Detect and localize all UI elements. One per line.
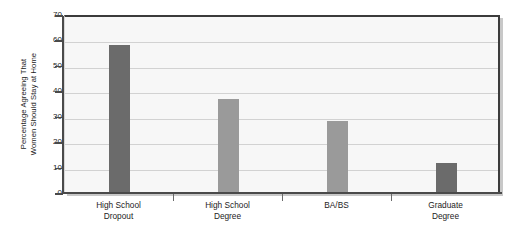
x-axis-tick-mark <box>173 194 174 201</box>
x-axis-category-label: High SchoolDegree <box>183 200 273 221</box>
y-axis-title-line-1: Percentage Agreeing That <box>19 53 29 155</box>
y-axis-tick-mark <box>55 117 63 119</box>
bar <box>109 45 130 192</box>
y-axis-tick-mark <box>55 66 63 68</box>
y-axis-tick-mark <box>55 40 63 42</box>
x-axis-category-label: BA/BS <box>292 200 382 211</box>
bar <box>327 121 348 192</box>
x-axis-category-label-line: Degree <box>401 211 491 222</box>
x-axis-category-label: GraduateDegree <box>401 200 491 221</box>
y-axis-tick-labels: 010203040506070 <box>38 0 62 241</box>
y-axis-tick-mark <box>55 142 63 144</box>
x-axis-tick-mark <box>282 194 283 201</box>
x-axis-category-label-line: High School <box>183 200 273 211</box>
x-axis-category-label: High SchoolDropout <box>74 200 164 221</box>
x-axis-category-label-line: High School <box>74 200 164 211</box>
y-axis-tick-mark <box>55 193 63 195</box>
x-axis-category-label-line: Dropout <box>74 211 164 222</box>
bar <box>218 99 239 192</box>
y-axis-title: Percentage Agreeing That Women Should St… <box>18 14 40 194</box>
x-axis-tick-mark <box>391 194 392 201</box>
bar-chart-figure: Percentage Agreeing That Women Should St… <box>0 0 508 241</box>
gridline <box>65 42 498 43</box>
y-axis-tick-mark <box>55 168 63 170</box>
plot-area <box>64 15 500 193</box>
x-axis-category-label-line: BA/BS <box>292 200 382 211</box>
y-axis-tick-mark <box>55 91 63 93</box>
x-axis-category-label-line: Graduate <box>401 200 491 211</box>
x-axis-category-label-line: Degree <box>183 211 273 222</box>
y-axis-tick-mark <box>55 15 63 17</box>
bar <box>436 163 457 192</box>
